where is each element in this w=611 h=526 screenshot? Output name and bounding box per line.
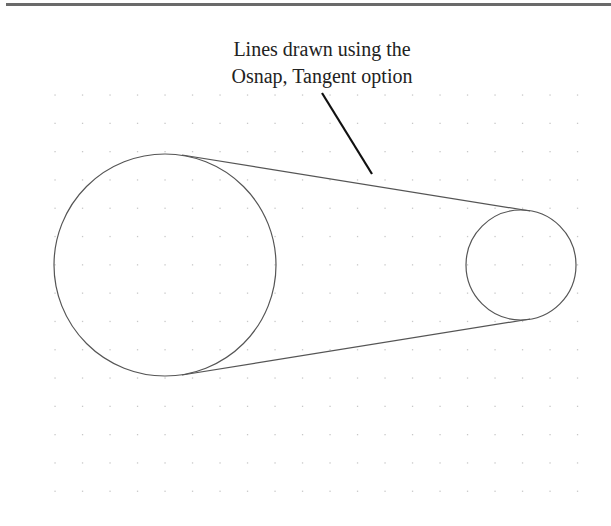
grid-dot [329, 236, 330, 237]
grid-dot [522, 377, 523, 378]
small-circle [466, 210, 576, 320]
grid-dot [384, 236, 385, 237]
grid-dot [247, 377, 248, 378]
grid-dot [137, 434, 138, 435]
grid-dot [164, 123, 165, 124]
grid-dot [494, 377, 495, 378]
grid-dot [439, 264, 440, 265]
grid-dot [494, 123, 495, 124]
grid-dot [439, 151, 440, 152]
grid-dot [467, 349, 468, 350]
grid-dot [54, 123, 55, 124]
grid-dot [439, 377, 440, 378]
grid-dot [247, 293, 248, 294]
grid-dot [54, 349, 55, 350]
grid-dot [137, 179, 138, 180]
grid-dot [467, 151, 468, 152]
grid-dot [577, 434, 578, 435]
grid-dot [384, 321, 385, 322]
grid-dot [274, 123, 275, 124]
grid-dot [274, 321, 275, 322]
grid-dot [577, 406, 578, 407]
grid-dot [467, 208, 468, 209]
grid-dot [522, 406, 523, 407]
grid-dot [494, 94, 495, 95]
grid-dot [82, 377, 83, 378]
grid-dot [577, 349, 578, 350]
grid-dot [494, 264, 495, 265]
grid-dot [467, 123, 468, 124]
grid-dot [412, 151, 413, 152]
grid-dot [302, 434, 303, 435]
grid-dot [439, 94, 440, 95]
grid-dot [522, 179, 523, 180]
grid-dot [164, 434, 165, 435]
grid-dot [439, 293, 440, 294]
grid-dot [82, 406, 83, 407]
grid-dot [549, 349, 550, 350]
grid-dot [164, 406, 165, 407]
grid-dot [494, 406, 495, 407]
grid-dot [274, 179, 275, 180]
grid-dot [219, 406, 220, 407]
grid-dot [302, 123, 303, 124]
grid-dot [219, 179, 220, 180]
grid-dot [302, 236, 303, 237]
grid-dot [467, 406, 468, 407]
snap-grid-dots [54, 94, 578, 492]
grid-dot [164, 94, 165, 95]
grid-dot [82, 321, 83, 322]
grid-dot [577, 151, 578, 152]
grid-dot [577, 264, 578, 265]
grid-dot [439, 123, 440, 124]
grid-dot [357, 406, 358, 407]
grid-dot [522, 349, 523, 350]
grid-dot [137, 264, 138, 265]
grid-dot [302, 151, 303, 152]
grid-dot [494, 349, 495, 350]
grid-dot [109, 434, 110, 435]
grid-dot [467, 377, 468, 378]
grid-dot [384, 208, 385, 209]
grid-dot [357, 208, 358, 209]
grid-dot [219, 151, 220, 152]
grid-dot [549, 491, 550, 492]
grid-dot [274, 349, 275, 350]
grid-dot [164, 151, 165, 152]
grid-dot [384, 434, 385, 435]
grid-dot [109, 123, 110, 124]
grid-dot [522, 434, 523, 435]
grid-dot [384, 377, 385, 378]
grid-dot [467, 321, 468, 322]
grid-dot [164, 264, 165, 265]
cad-drawing-canvas [0, 0, 611, 526]
grid-dot [522, 321, 523, 322]
grid-dot [219, 491, 220, 492]
grid-dot [274, 406, 275, 407]
grid-dot [247, 208, 248, 209]
grid-dot [274, 94, 275, 95]
grid-dot [549, 236, 550, 237]
grid-dot [412, 123, 413, 124]
grid-dot [577, 179, 578, 180]
grid-dot [439, 491, 440, 492]
grid-dot [219, 434, 220, 435]
grid-dot [329, 293, 330, 294]
grid-dot [577, 208, 578, 209]
grid-dot [522, 94, 523, 95]
grid-dot [494, 293, 495, 294]
grid-dot [522, 236, 523, 237]
grid-dot [412, 406, 413, 407]
grid-dot [82, 151, 83, 152]
grid-dot [494, 236, 495, 237]
grid-dot [384, 462, 385, 463]
grid-dot [329, 321, 330, 322]
grid-dot [439, 462, 440, 463]
tangent-line-top [182, 155, 530, 211]
grid-dot [247, 94, 248, 95]
grid-dot [467, 434, 468, 435]
grid-dot [357, 491, 358, 492]
grid-dot [357, 179, 358, 180]
grid-dot [137, 151, 138, 152]
grid-dot [439, 208, 440, 209]
